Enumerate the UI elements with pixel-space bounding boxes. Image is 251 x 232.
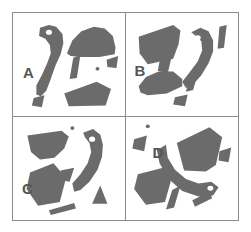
panel-label-a: A [23,65,34,80]
panel-d[interactable]: D [126,117,239,221]
panel-label-b: B [135,63,146,78]
panel-grid: A B [12,12,239,221]
fragment-group-a [32,25,118,107]
dome-cap [67,27,116,57]
thin-sliver [70,55,81,79]
panel-d-shapes [126,117,239,221]
bar-bottom [49,202,76,214]
small-wedge-right [218,147,231,162]
triangle-bottom-right [92,185,107,203]
tiny-wedge-bottom [173,94,188,106]
eye-dot-c [89,136,95,141]
dome-cap-left [134,167,171,204]
panel-label-d: D [153,145,164,160]
thin-bar-right [217,25,226,49]
panel-b[interactable]: B [126,13,239,117]
curved-hook-with-eye [72,129,103,192]
tiny-wedge-bottom-left [32,95,45,107]
curved-hook-with-eye [36,25,63,96]
speck-dot-d [145,124,149,128]
figure-root: A B [0,0,251,232]
small-wedge-upper-left [132,135,147,151]
panel-a[interactable]: A [13,13,126,117]
speck-dot-a [96,67,100,71]
fragment-group-b [138,25,226,106]
panel-c-shapes [13,117,125,221]
fragment-group-d [132,124,231,209]
large-quad-top-right [176,127,221,171]
eye-dot-a [46,30,52,35]
quad-bottom [64,82,111,107]
eye-dot-b [194,35,200,40]
small-wedge-mid [59,167,74,181]
dome-cap-top-left [27,130,68,159]
panel-c[interactable]: C [13,117,126,221]
small-wedge-right [107,56,119,68]
large-quad-top-left [138,25,180,64]
fragment-group-c [17,126,107,215]
eye-dot-d [207,185,213,190]
panel-label-c: C [22,181,33,196]
speck-dot-c [70,126,74,130]
